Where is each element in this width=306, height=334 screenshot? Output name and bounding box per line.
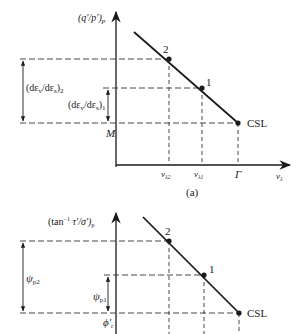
point-1-marker-b xyxy=(201,272,206,277)
y-tick-m: M xyxy=(105,127,116,139)
point-2-label-b: 2 xyxy=(165,225,171,237)
point-1-label-b: 1 xyxy=(209,263,215,275)
csl-label: CSL xyxy=(247,117,267,129)
state-line-a xyxy=(134,32,238,123)
x-tick-v-lambda-1: vλ1 xyxy=(194,169,204,180)
x-tick-v-lambda-2: vλ2 xyxy=(161,169,171,180)
point-1-label: 1 xyxy=(206,76,212,88)
dilatancy-label-2: (dεv/dεs)2 xyxy=(26,82,64,95)
state-line-b xyxy=(143,217,239,313)
x-tick-gamma: Γ xyxy=(234,168,242,180)
dilatancy-label-1: (dεv/dεs)1 xyxy=(68,99,106,112)
y-axis-label-b: (tan−1 τ′/σ′)p xyxy=(48,216,94,228)
point-2-marker xyxy=(166,56,171,61)
x-axis-label-a: vλ xyxy=(276,171,283,182)
panel-b: 2 1 CSL ψp2 ψp1 (tan−1 τ′/σ′)p ϕ′c xyxy=(20,213,267,334)
psi-p2-label: ψp2 xyxy=(26,272,40,286)
y-axis-label-a: (q′/p′)p xyxy=(78,12,106,25)
psi-p1-label: ψp1 xyxy=(93,290,107,304)
csl-point-marker xyxy=(235,120,240,125)
point-2-label: 2 xyxy=(163,43,169,55)
panel-a-caption: (a) xyxy=(186,186,199,199)
csl-point-marker-b xyxy=(236,310,241,315)
point-2-marker-b xyxy=(166,238,171,243)
critical-state-diagram: 2 1 CSL (dεv/dεs)2 (dεv/dεs)1 (q′/p′)p M… xyxy=(0,0,306,334)
csl-label-b: CSL xyxy=(247,307,267,319)
y-tick-phi-c: ϕ′c xyxy=(103,316,114,329)
panel-a: 2 1 CSL (dεv/dεs)2 (dεv/dεs)1 (q′/p′)p M… xyxy=(20,12,290,199)
point-1-marker xyxy=(199,85,204,90)
